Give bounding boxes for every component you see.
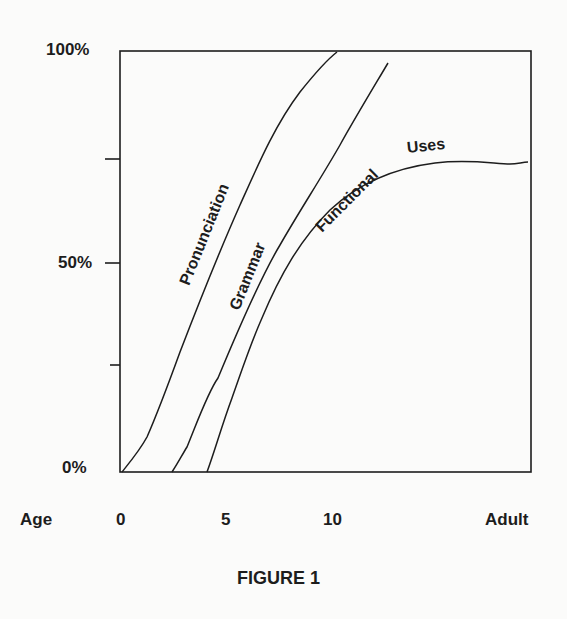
x-axis-title: Age: [20, 510, 52, 530]
y-label-0: 0%: [62, 458, 87, 478]
chart-canvas: [0, 0, 567, 619]
x-label-5: 5: [221, 510, 230, 530]
y-label-100: 100%: [46, 40, 89, 60]
figure-caption: FIGURE 1: [237, 568, 320, 589]
x-label-0: 0: [116, 510, 125, 530]
curve-functional-uses: [207, 161, 528, 472]
plot-frame: [120, 51, 531, 472]
curve-pronunciation: [122, 52, 337, 472]
x-label-10: 10: [323, 510, 342, 530]
x-label-adult: Adult: [485, 510, 528, 530]
y-label-50: 50%: [58, 253, 92, 273]
curve-grammar: [172, 63, 388, 472]
